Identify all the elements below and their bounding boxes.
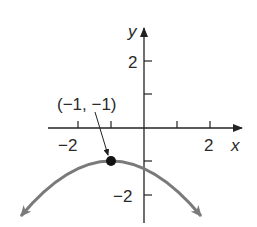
graph: −2 2 x 2 −2 y (−1, −1) — [0, 0, 257, 227]
y-axis-label: y — [127, 22, 138, 41]
point-label: (−1, −1) — [57, 95, 117, 114]
y-tick-label-2: 2 — [128, 53, 137, 72]
y-tick-label-neg2: −2 — [113, 187, 132, 206]
x-tick-label-2: 2 — [204, 136, 213, 155]
x-tick-label-neg2: −2 — [58, 136, 77, 155]
vertex-point — [106, 156, 116, 166]
parabola-curve — [21, 161, 111, 216]
annotation-arrow — [95, 112, 108, 155]
x-axis-label: x — [230, 136, 240, 155]
